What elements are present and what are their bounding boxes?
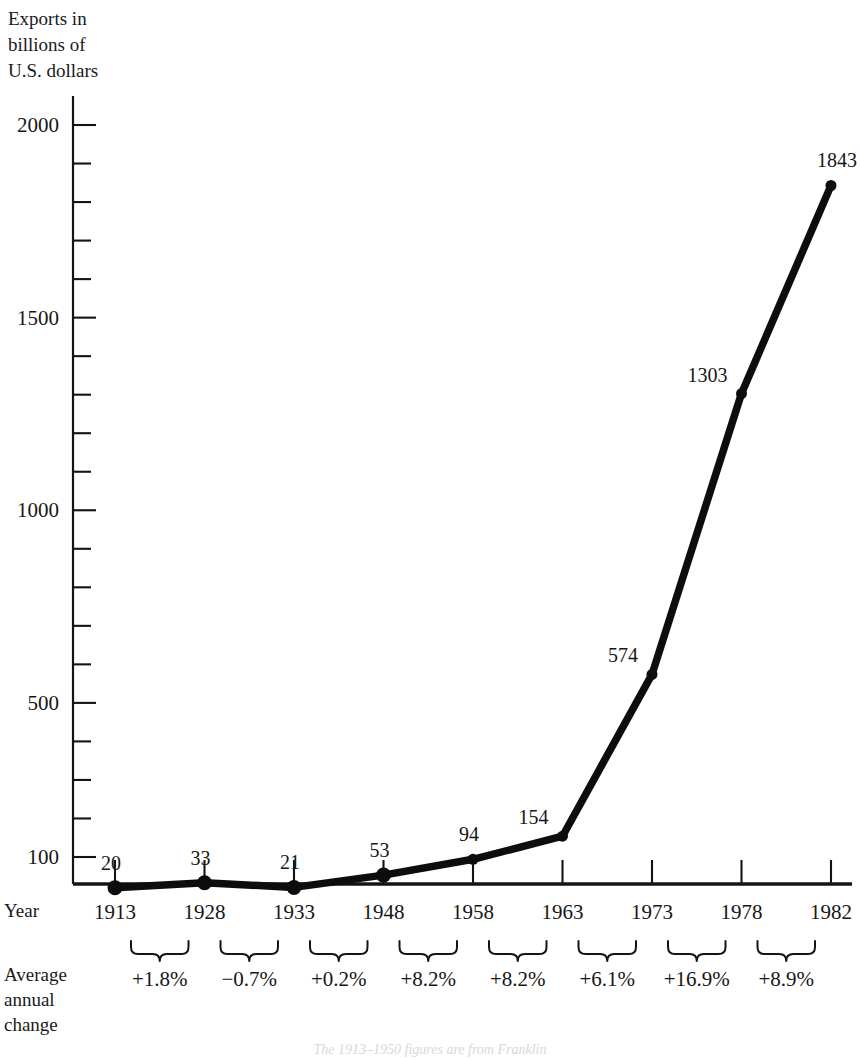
interval-brace bbox=[758, 941, 816, 961]
data-point-value-label: 53 bbox=[370, 839, 390, 861]
data-point-marker bbox=[647, 669, 658, 680]
data-point-value-label: 1843 bbox=[817, 149, 857, 171]
data-point-value-label: 154 bbox=[519, 806, 549, 828]
data-point-marker bbox=[108, 880, 123, 895]
interval-percent-label: +16.9% bbox=[664, 967, 730, 991]
x-axis-tick-label: 1982 bbox=[810, 900, 852, 924]
exports-polyline bbox=[115, 186, 831, 888]
interval-brace bbox=[400, 941, 458, 961]
x-axis-tick-label: 1958 bbox=[452, 900, 494, 924]
interval-brace bbox=[221, 941, 279, 961]
chart-plot-area: 100500100015002000 203321539415457413031… bbox=[0, 0, 860, 1058]
data-point-value-label: 20 bbox=[101, 852, 121, 874]
interval-brace bbox=[489, 941, 547, 961]
data-point-value-label: 94 bbox=[459, 823, 479, 845]
x-axis-tick-label: 1948 bbox=[363, 900, 405, 924]
interval-percent-label: +8.9% bbox=[758, 967, 814, 991]
data-point-value-label: 21 bbox=[280, 851, 300, 873]
data-point-marker bbox=[197, 875, 212, 890]
interval-brace bbox=[579, 941, 637, 961]
x-axis-tick-label: 1963 bbox=[542, 900, 584, 924]
y-axis-tick-label: 500 bbox=[28, 691, 60, 715]
y-axis-tick-label: 100 bbox=[28, 845, 60, 869]
exports-line-chart-figure: Exports in billions of U.S. dollars 1005… bbox=[0, 0, 860, 1058]
data-point-marker bbox=[736, 388, 747, 399]
interval-percent-label: +8.2% bbox=[400, 967, 456, 991]
interval-percent-label: −0.7% bbox=[221, 967, 277, 991]
interval-percent-labels: +1.8%−0.7%+0.2%+8.2%+8.2%+6.1%+16.9%+8.9… bbox=[132, 967, 814, 991]
x-axis-tick-labels: 191319281933194819581963197319781982 bbox=[94, 900, 852, 924]
exports-series bbox=[108, 180, 837, 895]
data-point-marker bbox=[826, 180, 837, 191]
figure-caption: The 1913–1950 figures are from Franklin bbox=[0, 1042, 860, 1058]
data-point-marker bbox=[376, 868, 391, 883]
interval-brace bbox=[310, 941, 368, 961]
interval-percent-label: +6.1% bbox=[579, 967, 635, 991]
data-point-labels: 203321539415457413031843 bbox=[101, 149, 857, 873]
average-annual-change-row-label: Average annual change bbox=[4, 962, 67, 1037]
interval-brace bbox=[131, 941, 189, 961]
x-axis-tick-label: 1913 bbox=[94, 900, 136, 924]
data-point-marker bbox=[557, 831, 568, 842]
interval-percent-label: +0.2% bbox=[311, 967, 367, 991]
x-axis-tick-label: 1973 bbox=[631, 900, 673, 924]
x-axis-tick-label: 1933 bbox=[273, 900, 315, 924]
data-point-value-label: 33 bbox=[191, 847, 211, 869]
x-axis-tick-label: 1928 bbox=[184, 900, 226, 924]
y-axis-tick-label: 1500 bbox=[17, 306, 59, 330]
y-axis-tick-label: 1000 bbox=[17, 498, 59, 522]
interval-brace bbox=[668, 941, 726, 961]
interval-braces bbox=[131, 941, 815, 961]
data-point-marker bbox=[468, 854, 479, 865]
interval-percent-label: +8.2% bbox=[490, 967, 546, 991]
year-row-label: Year bbox=[4, 898, 39, 923]
y-axis: 100500100015002000 bbox=[17, 96, 96, 884]
data-point-value-label: 1303 bbox=[688, 364, 728, 386]
x-axis-tick-label: 1978 bbox=[721, 900, 763, 924]
y-axis-tick-label: 2000 bbox=[17, 113, 59, 137]
data-point-value-label: 574 bbox=[608, 644, 638, 666]
interval-percent-label: +1.8% bbox=[132, 967, 188, 991]
data-point-marker bbox=[287, 880, 302, 895]
